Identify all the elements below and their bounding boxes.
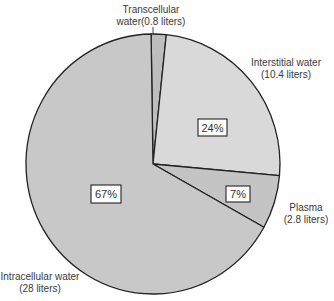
percent-label-interstitial: 24% bbox=[201, 122, 223, 134]
label-plasma-line1: Plasma bbox=[289, 202, 323, 213]
percent-label-plasma: 7% bbox=[230, 188, 246, 200]
pie-chart: Transcellular water(0.8 liters) Intersti… bbox=[0, 0, 334, 301]
label-plasma-line2: (2.8 liters) bbox=[284, 214, 328, 225]
label-interstitial-line1: Interstitial water bbox=[251, 57, 322, 68]
label-transcellular-line1: Transcellular bbox=[123, 4, 181, 15]
label-interstitial-line2: (10.4 liters) bbox=[261, 69, 311, 80]
label-intracellular-line1: Intracellular water bbox=[1, 271, 81, 282]
percent-label-intracellular: 67% bbox=[95, 188, 117, 200]
label-transcellular-line2: water(0.8 liters) bbox=[116, 16, 186, 27]
label-intracellular-line2: (28 liters) bbox=[19, 283, 61, 294]
pie-slice-interstitial-water bbox=[153, 35, 280, 176]
